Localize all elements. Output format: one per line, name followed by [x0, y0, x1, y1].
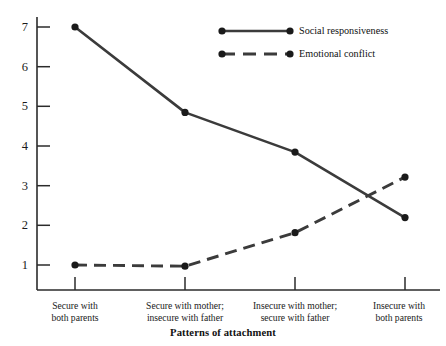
y-tick-label-7: 7 — [6, 21, 28, 34]
x-category-label-3: Insecure with mother; secure with father — [235, 300, 355, 323]
y-tick-label-2: 2 — [6, 219, 28, 232]
legend-markers — [218, 27, 293, 57]
x-axis-title: Patterns of attachment — [0, 327, 446, 338]
data-point — [71, 261, 78, 268]
data-point — [291, 149, 298, 156]
data-point — [181, 109, 188, 116]
y-tick-label-1: 1 — [6, 259, 28, 272]
y-tick-label-4: 4 — [6, 140, 28, 153]
legend-label-social-responsiveness: Social responsiveness — [299, 26, 388, 36]
y-tick-label-5: 5 — [6, 100, 28, 113]
y-tick-label-3: 3 — [6, 180, 28, 193]
data-point — [291, 229, 298, 236]
x-axis-ticks — [75, 277, 405, 290]
legend-endpoint-dot — [218, 27, 225, 34]
x-category-label-4: Insecure with both parents — [355, 300, 443, 323]
data-point — [181, 263, 188, 270]
y-axis-ticks — [37, 27, 50, 265]
data-point — [71, 23, 78, 30]
data-point — [401, 214, 408, 221]
legend-label-emotional-conflict: Emotional conflict — [299, 49, 375, 59]
legend-endpoint-dot — [286, 50, 293, 57]
legend-endpoint-dot — [218, 50, 225, 57]
chart-plot-area — [0, 0, 446, 346]
legend-endpoint-dot — [286, 27, 293, 34]
chart-container: 7 6 5 4 3 2 1 Secure with both parents S… — [0, 0, 446, 346]
series-line-emotional-conflict — [75, 177, 405, 266]
data-point — [401, 174, 408, 181]
series-emotional-conflict — [71, 174, 408, 270]
y-tick-label-6: 6 — [6, 61, 28, 74]
x-category-label-2: Secure with mother; insecure with father — [125, 300, 245, 323]
x-category-label-1: Secure with both parents — [25, 300, 125, 323]
